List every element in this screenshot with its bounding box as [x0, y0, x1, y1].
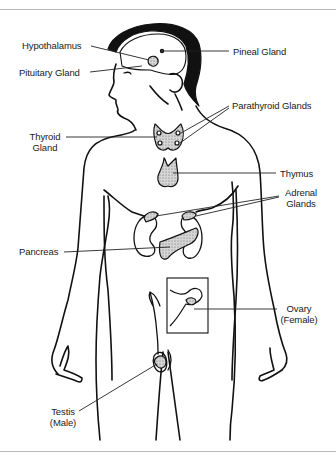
parathyroid-gland [175, 141, 179, 145]
testis-gland [155, 356, 166, 368]
label-ovary: Ovary (Female) [278, 303, 320, 325]
label-thyroid-line1: Thyroid [25, 131, 65, 142]
label-testis-line2: (Male) [46, 417, 80, 428]
jaw-line [150, 86, 168, 104]
label-thymus: Thymus [280, 168, 313, 179]
parathyroid-gland [158, 141, 162, 145]
label-ovary-line2: (Female) [278, 314, 320, 325]
neck-back [175, 94, 182, 110]
label-testis: Testis (Male) [46, 406, 80, 428]
leader-testis [79, 364, 157, 411]
leader-hypothalamus [91, 46, 149, 60]
vas-deferens [149, 292, 160, 354]
left-hand [56, 346, 82, 382]
leader-adrenal-1 [156, 196, 279, 216]
thymus-gland [158, 158, 178, 187]
face-profile [109, 64, 136, 130]
thyroid-gland [154, 124, 183, 150]
pineal-gland [160, 49, 163, 52]
label-thyroid-gland: Thyroid Gland [25, 131, 65, 153]
pancreas-gland [159, 228, 198, 259]
label-thyroid-line2: Gland [25, 142, 65, 153]
hypothalamus-gland [148, 56, 158, 66]
rib-left [104, 190, 150, 218]
label-pineal-gland: Pineal Gland [233, 46, 286, 57]
label-adrenal-glands: Adrenal Glands [281, 187, 321, 209]
label-ovary-line1: Ovary [278, 303, 320, 314]
label-parathyroid-glands: Parathyroid Glands [232, 100, 312, 111]
leader-parathyroid-1 [181, 106, 229, 133]
label-pancreas: Pancreas [19, 246, 58, 257]
label-testis-line1: Testis [46, 406, 80, 417]
parathyroid-gland [176, 131, 180, 135]
parathyroid-gland [157, 131, 161, 135]
ovary-inset [167, 278, 208, 333]
eye [124, 72, 131, 74]
leader-parathyroid-2 [180, 108, 229, 143]
endocrine-diagram: Hypothalamus Pituitary Gland Pineal Glan… [0, 0, 336, 466]
label-hypothalamus: Hypothalamus [22, 40, 82, 51]
left-inner-arm [96, 196, 110, 440]
ear [170, 74, 182, 92]
ovary-gland [186, 298, 196, 305]
label-adrenal-line2: Glands [281, 198, 321, 209]
label-pituitary-gland: Pituitary Gland [19, 67, 80, 78]
right-hand [259, 348, 282, 381]
right-shoulder [196, 106, 287, 370]
brain-outline [120, 34, 186, 75]
adrenal-gland-right [182, 212, 196, 220]
label-adrenal-line1: Adrenal [281, 187, 321, 198]
